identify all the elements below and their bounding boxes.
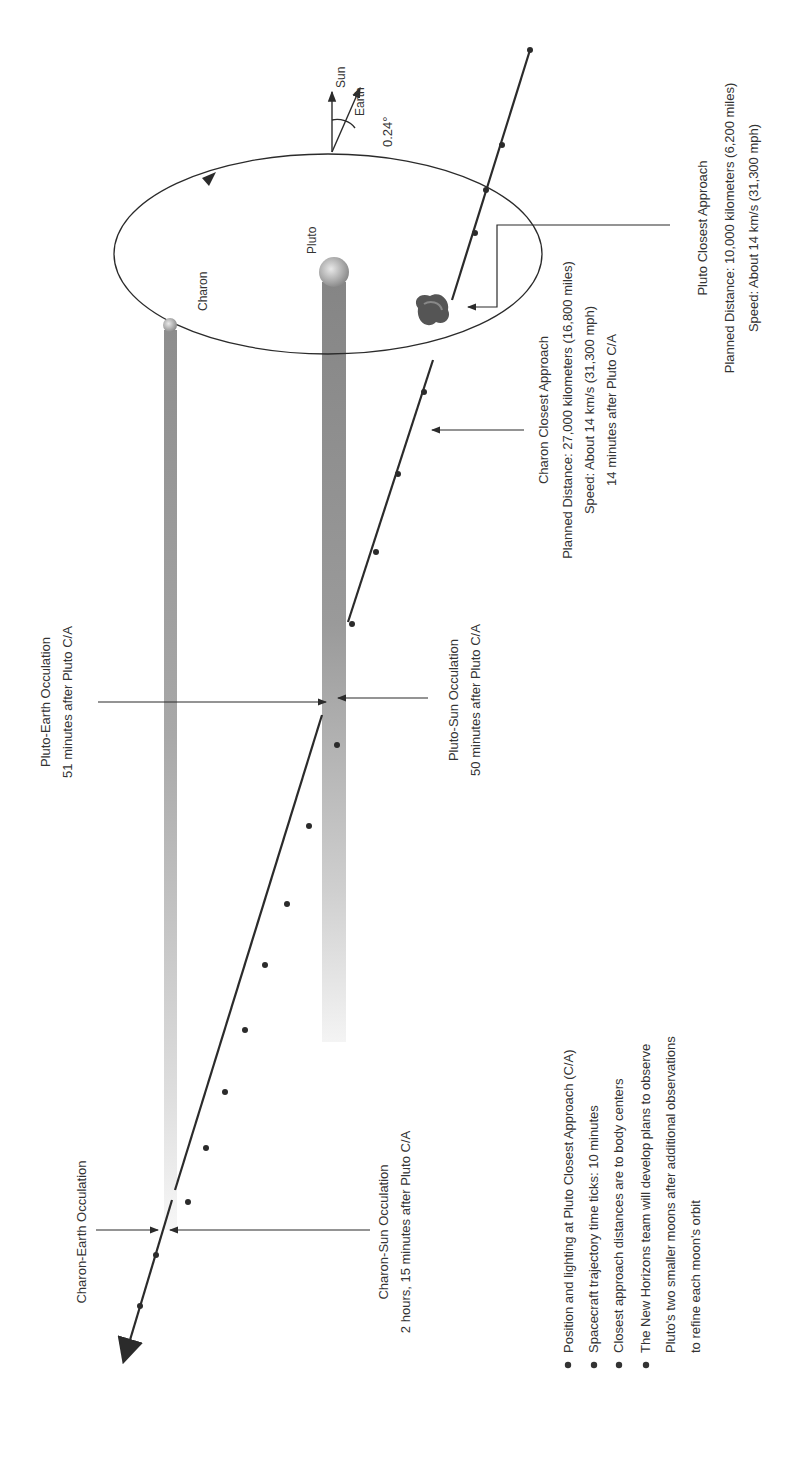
charon-ca-title: Charon Closest Approach bbox=[536, 336, 551, 484]
pluto-body bbox=[319, 257, 349, 287]
pluto-earth-occ-time: 51 minutes after Pluto C/A bbox=[60, 626, 75, 778]
charon-label: Charon bbox=[196, 272, 210, 311]
pluto-earth-occ-title: Pluto-Earth Occulation bbox=[38, 637, 53, 767]
spacecraft-icon bbox=[416, 294, 449, 325]
charon-sun-occ-title: Charon-Sun Occulation bbox=[376, 1164, 391, 1299]
pluto-ca-distance: Planned Distance: 10,000 kilometers (6,2… bbox=[722, 83, 737, 373]
note-item: Pluto's two smaller moons after addition… bbox=[663, 1036, 678, 1353]
pluto-shadow bbox=[322, 282, 346, 1042]
note-item: to refine each moon's orbit bbox=[688, 1200, 703, 1353]
angle-label: 0.24° bbox=[380, 116, 395, 147]
flyby-diagram: Sun Earth 0.24° Pluto Charon Pluto Close… bbox=[0, 0, 807, 1469]
pluto-ca-title: Pluto Closest Approach bbox=[695, 160, 710, 295]
note-item: The New Horizons team will develop plans… bbox=[638, 1044, 653, 1353]
charon-ca-speed: Speed: About 14 km/s (31,300 mph) bbox=[582, 306, 597, 514]
bullet-icon bbox=[616, 1362, 622, 1368]
charon-ca-distance: Planned Distance: 27,000 kilometers (16,… bbox=[560, 261, 575, 559]
bullet-icon bbox=[591, 1362, 597, 1368]
charon-sun-occ-time: 2 hours, 15 minutes after Pluto C/A bbox=[398, 1131, 413, 1334]
earth-label: Earth bbox=[353, 87, 367, 116]
note-item: Position and lighting at Pluto Closest A… bbox=[561, 1049, 576, 1353]
notes-list: Position and lighting at Pluto Closest A… bbox=[561, 1036, 703, 1369]
bullet-icon bbox=[565, 1362, 571, 1368]
bullet-icon bbox=[643, 1362, 649, 1368]
charon-ca-time: 14 minutes after Pluto C/A bbox=[604, 334, 619, 486]
pluto-sun-occ-title: Pluto-Sun Occulation bbox=[446, 639, 461, 761]
charon-shadow bbox=[164, 330, 177, 1230]
pluto-sun-occ-time: 50 minutes after Pluto C/A bbox=[468, 624, 483, 776]
charon-earth-occ-title: Charon-Earth Occulation bbox=[74, 1160, 89, 1303]
note-item: Closest approach distances are to body c… bbox=[611, 1078, 626, 1353]
pluto-label: Pluto bbox=[305, 226, 319, 254]
charon-body bbox=[163, 318, 177, 332]
orbit-direction-arrow-icon bbox=[202, 172, 216, 186]
sun-label: Sun bbox=[334, 67, 348, 88]
pluto-ca-speed: Speed: About 14 km/s (31,300 mph) bbox=[746, 124, 761, 332]
note-item: Spacecraft trajectory time ticks: 10 min… bbox=[586, 1105, 601, 1353]
